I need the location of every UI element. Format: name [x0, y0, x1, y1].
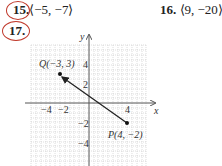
- y-axis-label: y: [79, 31, 85, 42]
- y-tick: −4: [78, 138, 89, 149]
- x-axis-label: x: [153, 105, 159, 116]
- y-tick: 2: [83, 79, 88, 90]
- point-q-label: Q(−3, 3): [39, 58, 75, 70]
- x-tick: 4: [125, 104, 130, 115]
- coordinate-graph: x y −4 −2 4 4 2 −2 −4 Q(−3, 3) P(4, −2): [0, 0, 222, 166]
- x-tick: −4: [41, 104, 52, 115]
- y-tick: 4: [83, 59, 88, 70]
- point-q: [58, 72, 62, 76]
- point-p-label: P(4, −2): [107, 129, 143, 141]
- point-p: [125, 121, 129, 125]
- x-tick: −2: [58, 104, 69, 115]
- y-tick: −2: [78, 118, 89, 129]
